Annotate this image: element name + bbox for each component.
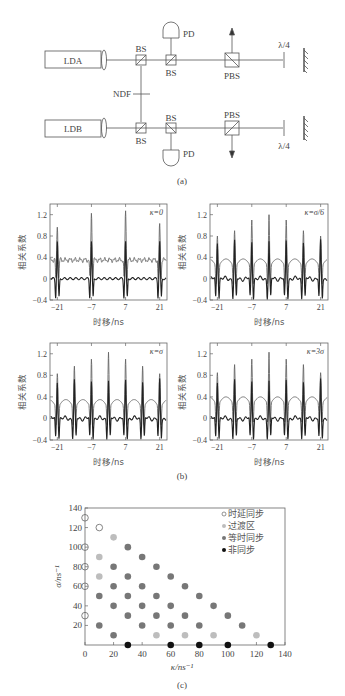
- x-tick-label: −7: [87, 443, 96, 452]
- data-point: [167, 642, 174, 649]
- lens-b-icon: [102, 118, 107, 138]
- y-tick-label: 0.8: [197, 232, 207, 241]
- legend-marker-icon: [222, 548, 226, 552]
- data-point: [139, 622, 146, 629]
- lower-trace: [211, 379, 327, 440]
- data-point: [167, 622, 174, 629]
- data-point: [139, 603, 146, 610]
- y-tick-label: 1.2: [197, 211, 207, 220]
- x-tick-label: 20: [109, 649, 119, 659]
- lens-a-icon: [102, 50, 107, 70]
- label-ldb: LDB: [64, 124, 82, 134]
- photodetector-a-icon: [163, 22, 179, 38]
- data-point: [110, 534, 117, 541]
- x-axis-label: 时移/ns: [93, 457, 124, 467]
- data-point: [125, 593, 132, 600]
- legend-label: 时延同步: [228, 508, 264, 519]
- x-tick-label: 7: [284, 443, 288, 452]
- y-axis-label: 相关系数: [17, 374, 27, 410]
- label-pd: PD: [183, 29, 195, 39]
- data-point: [110, 563, 117, 570]
- data-point: [253, 632, 260, 639]
- y-tick-label: 0.8: [37, 371, 47, 380]
- x-tick-label: −21: [211, 443, 224, 452]
- x-tick-label: 100: [221, 649, 235, 659]
- figure-canvas: LDA LDB BS BS BS BS PBS PBS PD PD NDF λ/…: [0, 0, 345, 696]
- y-axis-label: 相关系数: [177, 374, 187, 410]
- y-tick-label: −0.4: [32, 296, 47, 305]
- y-tick-label: 60: [73, 581, 83, 591]
- x-tick-label: 7: [124, 303, 128, 312]
- data-point: [210, 632, 217, 639]
- correlation-panel: 1.20.80.40−0.4−21−7721时移/ns相关系数κ=σ/6: [177, 204, 328, 327]
- data-point: [96, 622, 103, 629]
- data-point: [139, 554, 146, 561]
- y-tick-label: 0.4: [197, 393, 207, 402]
- correlation-panel: 1.20.80.40−0.4−21−7721时移/ns相关系数κ=3σ: [177, 343, 328, 467]
- data-point: [96, 554, 103, 561]
- y-tick-label: 0: [203, 414, 207, 423]
- x-tick-label: 21: [317, 303, 325, 312]
- kappa-label: κ=σ/6: [305, 208, 324, 217]
- data-point: [153, 563, 160, 570]
- label-bs: BS: [135, 44, 146, 54]
- optical-setup-diagram: [45, 22, 308, 166]
- label-pbs: PBS: [224, 71, 240, 81]
- x-tick-label: 60: [166, 649, 176, 659]
- x-tick-label: −7: [248, 303, 257, 312]
- correlation-panel: 1.20.80.40−0.4−21−7721时移/ns相关系数κ=0: [17, 204, 167, 327]
- x-tick-label: 21: [317, 443, 325, 452]
- y-tick-label: −0.4: [192, 296, 207, 305]
- y-tick-label: 1.2: [197, 350, 207, 359]
- x-tick-label: 40: [138, 649, 148, 659]
- y-axis-label: σ/ns⁻¹: [53, 565, 63, 588]
- data-point: [96, 573, 103, 580]
- caption-b: (b): [177, 471, 188, 481]
- y-tick-label: 0: [203, 275, 207, 284]
- x-tick-label: 120: [250, 649, 264, 659]
- data-point: [125, 544, 132, 551]
- caption-c: (c): [177, 680, 187, 690]
- data-point: [196, 642, 203, 649]
- data-point: [125, 573, 132, 580]
- y-tick-label: 0.4: [37, 393, 47, 402]
- data-point: [96, 593, 103, 600]
- data-point: [196, 622, 203, 629]
- x-tick-label: −21: [51, 303, 64, 312]
- label-qwp: λ/4: [278, 141, 290, 151]
- correlation-panel: 1.20.80.40−0.4−21−7721时移/ns相关系数κ=σ: [17, 343, 167, 467]
- y-tick-label: 120: [69, 523, 83, 533]
- x-tick-label: −21: [51, 443, 64, 452]
- x-axis-label: 时移/ns: [254, 457, 285, 467]
- y-tick-label: −0.4: [32, 436, 47, 445]
- legend-marker-icon: [222, 524, 226, 528]
- y-tick-label: 1.2: [37, 211, 47, 220]
- data-point: [125, 612, 132, 619]
- data-point: [110, 583, 117, 590]
- data-point: [196, 593, 203, 600]
- x-axis-label: κ/ns⁻¹: [171, 662, 194, 672]
- legend-label: 等时同步: [228, 532, 264, 543]
- x-tick-label: −7: [87, 303, 96, 312]
- x-tick-label: 140: [278, 649, 292, 659]
- x-tick-label: −21: [211, 303, 224, 312]
- y-tick-label: 20: [73, 620, 83, 630]
- lower-trace: [51, 379, 166, 440]
- data-point: [225, 612, 232, 619]
- y-tick-label: 0.8: [197, 371, 207, 380]
- data-point: [110, 603, 117, 610]
- label-lda: LDA: [64, 56, 83, 66]
- arrow-up-icon: [230, 28, 235, 35]
- label-ndf: NDF: [113, 89, 131, 99]
- label-pd: PD: [183, 149, 195, 159]
- y-tick-label: 1.2: [37, 350, 47, 359]
- y-tick-label: 0.4: [37, 253, 47, 262]
- x-tick-label: 7: [284, 303, 288, 312]
- y-tick-label: 140: [69, 503, 83, 513]
- caption-a: (a): [177, 176, 187, 186]
- data-point: [153, 593, 160, 600]
- sync-regime-scatter: 02040608010012014020406080100120140κ/ns⁻…: [53, 503, 292, 672]
- label-qwp: λ/4: [278, 40, 290, 50]
- label-bs: BS: [135, 136, 146, 146]
- kappa-label: κ=σ: [150, 347, 164, 356]
